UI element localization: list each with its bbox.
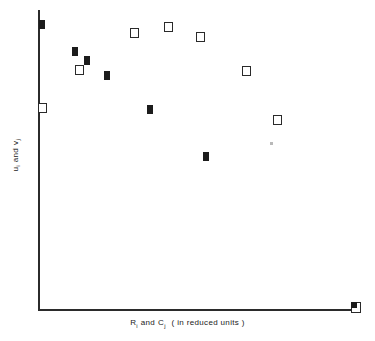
x-axis-label-units: ( in reduced units ) — [172, 318, 245, 327]
speck-1 — [270, 142, 273, 145]
y-axis-label-var2: v — [11, 141, 20, 145]
y-axis-label: uiandvj — [11, 115, 22, 195]
y-axis-label-var1: u — [11, 167, 20, 172]
combo-bottom-right — [351, 302, 361, 313]
x-axis-label-sub2: j — [164, 323, 165, 329]
open-3 — [130, 28, 139, 38]
filled-1 — [39, 20, 45, 29]
open-5 — [196, 32, 205, 42]
open-1 — [38, 103, 47, 113]
open-2 — [75, 65, 84, 75]
x-axis-label-conj: and — [141, 318, 155, 327]
combo-filled-square — [351, 302, 357, 308]
x-axis-label-sub1: i — [136, 323, 137, 329]
plot-area — [38, 10, 358, 310]
x-axis-label: RiandCj( in reduced units ) — [0, 318, 375, 329]
y-axis-label-conj: and — [11, 148, 20, 162]
y-axis-label-sub2: j — [15, 139, 21, 140]
open-4 — [164, 22, 173, 32]
filled-4 — [104, 71, 110, 80]
filled-5 — [147, 105, 153, 114]
filled-2 — [72, 47, 78, 56]
y-axis-label-sub1: i — [15, 165, 21, 166]
scatter-plot-figure: uiandvj RiandCj( in reduced units ) — [0, 0, 375, 341]
open-7 — [273, 115, 282, 125]
open-6 — [242, 66, 251, 76]
filled-3 — [84, 56, 90, 65]
filled-6 — [203, 152, 209, 161]
